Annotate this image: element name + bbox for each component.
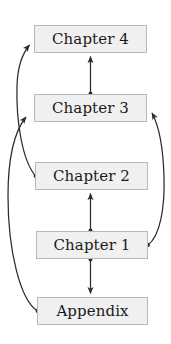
node-label: Appendix [56, 303, 128, 318]
node-label: Chapter 4 [52, 31, 129, 46]
edge-curve [8, 117, 38, 311]
edge-chapter1-to-chapter3 [146, 113, 164, 247]
node-label: Chapter 1 [54, 237, 131, 252]
edge-chapter3-to-chapter4 [89, 57, 93, 96]
node-label: Chapter 3 [52, 100, 129, 115]
node-label: Chapter 2 [53, 168, 130, 183]
node-chapter-4[interactable]: Chapter 4 [34, 25, 147, 53]
diagram-canvas: Chapter 4 Chapter 3 Chapter 2 Chapter 1 … [0, 0, 171, 344]
node-chapter-1[interactable]: Chapter 1 [36, 231, 148, 259]
edge-curve [148, 113, 164, 245]
node-chapter-3[interactable]: Chapter 3 [34, 94, 147, 122]
node-chapter-2[interactable]: Chapter 2 [35, 162, 148, 190]
node-appendix[interactable]: Appendix [37, 297, 148, 325]
edge-chapter1-to-appendix [89, 258, 93, 294]
edge-appendix-to-chapter3 [8, 117, 39, 313]
edge-curve [17, 45, 36, 176]
edge-chapter1-to-chapter2 [89, 194, 93, 233]
